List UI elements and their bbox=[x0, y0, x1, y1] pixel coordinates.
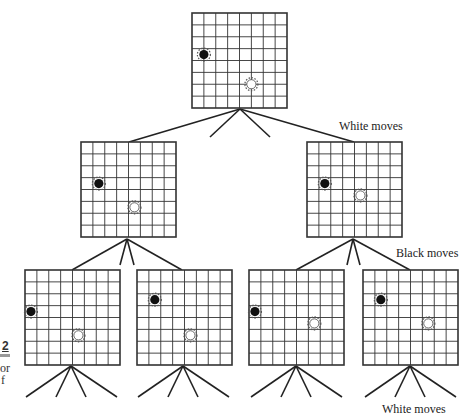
board-child-right bbox=[307, 142, 402, 237]
black-stone-icon bbox=[250, 307, 259, 316]
white-stone-icon bbox=[74, 331, 83, 340]
board-child-left bbox=[81, 142, 176, 237]
white-stone-icon bbox=[130, 203, 139, 212]
black-stone-icon bbox=[320, 179, 329, 188]
black-stone-icon bbox=[376, 295, 385, 304]
board-grandchild-2 bbox=[137, 270, 232, 365]
white-stone-icon bbox=[247, 80, 256, 89]
white-stone-icon bbox=[356, 191, 365, 200]
board-grandchild-1 bbox=[24, 270, 120, 365]
tree-edge bbox=[347, 239, 353, 265]
tree-edge bbox=[72, 239, 127, 270]
black-stone-icon bbox=[199, 50, 208, 59]
board-root bbox=[192, 13, 287, 108]
label-white-moves-level1: White moves bbox=[339, 119, 403, 134]
label-white-moves-level3: White moves bbox=[382, 402, 446, 416]
board-grandchild-3 bbox=[248, 270, 344, 365]
cropped-caption-rule bbox=[0, 354, 10, 357]
board-nodes bbox=[24, 13, 458, 365]
game-tree-diagram bbox=[0, 0, 461, 416]
black-stone-icon bbox=[150, 295, 159, 304]
black-stone-icon bbox=[26, 307, 35, 316]
cropped-figure-number: 2 bbox=[2, 339, 9, 353]
black-stone-icon bbox=[94, 179, 103, 188]
white-stone-icon bbox=[310, 319, 319, 328]
tree-edge bbox=[127, 239, 182, 270]
label-black-moves-level2: Black moves bbox=[396, 246, 458, 261]
board-grandchild-4 bbox=[363, 270, 458, 365]
tree-edge bbox=[296, 239, 353, 270]
cropped-caption-text-2: f bbox=[1, 373, 5, 388]
white-stone-icon bbox=[424, 319, 433, 328]
white-stone-icon bbox=[186, 331, 195, 340]
